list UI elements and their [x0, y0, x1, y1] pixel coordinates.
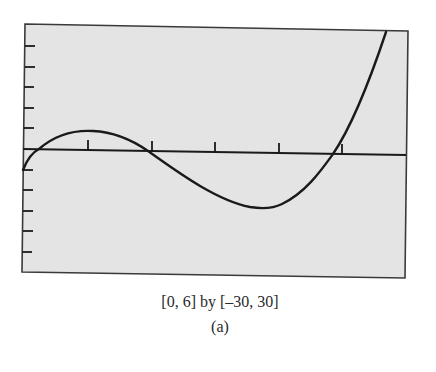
panel-label: (a): [2, 318, 436, 336]
viewing-window-caption: [0, 6] by [–30, 30]: [2, 293, 436, 311]
graphing-calculator-screen: [0, 0, 436, 290]
